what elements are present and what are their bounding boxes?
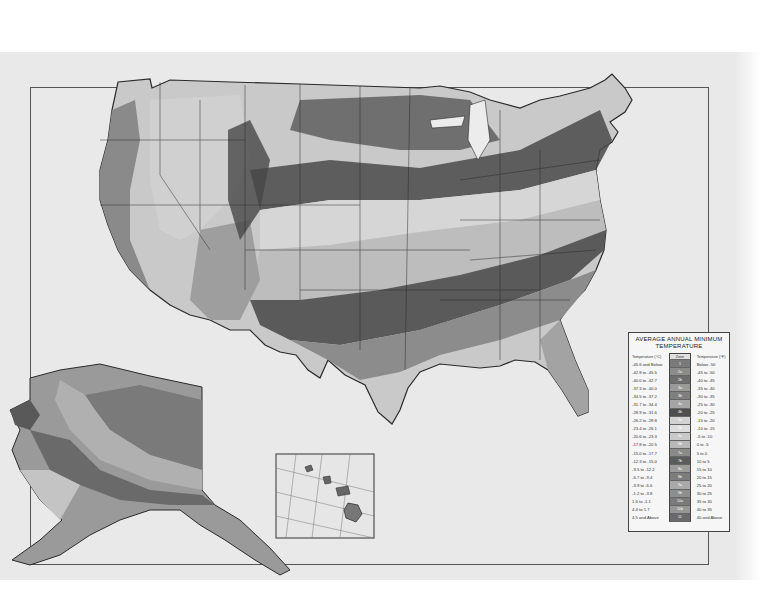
legend-zone-swatch: 2b: [669, 376, 691, 384]
legend-zone-swatch: 10a: [669, 498, 691, 506]
legend-title-line2: TEMPERATURE: [632, 343, 726, 350]
legend-celsius: -37.3 to -40.0: [632, 386, 669, 391]
legend-row: -34.5 to -37.23b-30 to -35: [632, 392, 726, 400]
alaska-inset: [10, 364, 290, 575]
legend-zone-swatch: 5a: [669, 417, 691, 425]
legend-celsius: 4.5 and Above: [632, 515, 669, 520]
legend-zone-swatch: 8b: [669, 473, 691, 481]
legend-row: -45.6 and Below1Below -50: [632, 360, 726, 368]
legend-row: -23.4 to -26.15b-10 to -15: [632, 425, 726, 433]
legend-row: -12.3 to -15.07b10 to 5: [632, 457, 726, 465]
legend-celsius: -45.6 and Below: [632, 362, 669, 367]
legend-celsius: -9.5 to -12.2: [632, 467, 669, 472]
legend-header-zone: Zone: [669, 353, 691, 360]
contiguous-us-map: [100, 74, 632, 424]
legend-zone-swatch: 6b: [669, 441, 691, 449]
legend-celsius: -28.9 to -31.6: [632, 410, 669, 415]
legend-box: AVERAGE ANNUAL MINIMUM TEMPERATURE Tempe…: [628, 332, 730, 532]
legend-zone-swatch: 9b: [669, 490, 691, 498]
legend-fahrenheit: 0 to -5: [691, 442, 726, 447]
legend-header-celsius: Temperature (°C): [632, 355, 669, 359]
legend-zone-swatch: 4a: [669, 400, 691, 408]
legend-fahrenheit: 15 to 10: [691, 467, 726, 472]
legend-zone-swatch: 7b: [669, 457, 691, 465]
legend-row: -40.0 to -42.72b-40 to -45: [632, 376, 726, 384]
legend-row: -37.3 to -40.03a-35 to -40: [632, 384, 726, 392]
legend-fahrenheit: 40 and Above: [691, 515, 726, 520]
legend-header-fahrenheit: Temperature (°F): [691, 355, 726, 359]
legend-zone-swatch: 6a: [669, 433, 691, 441]
legend-fahrenheit: -5 to -10: [691, 434, 726, 439]
legend-celsius: -1.2 to -3.8: [632, 491, 669, 496]
legend-row: 4.4 to 1.710b40 to 35: [632, 506, 726, 514]
legend-fahrenheit: -15 to -20: [691, 418, 726, 423]
legend-celsius: -40.0 to -42.7: [632, 378, 669, 383]
legend-row: -15.0 to -17.77a5 to 0: [632, 449, 726, 457]
legend-row: -31.7 to -34.44a-25 to -30: [632, 400, 726, 408]
legend-zone-swatch: 9a: [669, 481, 691, 489]
legend-celsius: -31.7 to -34.4: [632, 402, 669, 407]
legend-fahrenheit: 30 to 25: [691, 491, 726, 496]
legend-zone-swatch: 8a: [669, 465, 691, 473]
legend-fahrenheit: -30 to -35: [691, 394, 726, 399]
legend-row: -28.9 to -31.64b-20 to -25: [632, 409, 726, 417]
legend-fahrenheit: -25 to -30: [691, 402, 726, 407]
legend-celsius: -20.6 to -23.3: [632, 434, 669, 439]
legend-celsius: -23.4 to -26.1: [632, 426, 669, 431]
legend-zone-swatch: 1: [669, 360, 691, 368]
legend-fahrenheit: 20 to 15: [691, 475, 726, 480]
legend-zone-swatch: 7a: [669, 449, 691, 457]
legend-fahrenheit: -35 to -40: [691, 386, 726, 391]
legend-celsius: -3.9 to -6.6: [632, 483, 669, 488]
legend-row: -26.2 to -28.85a-15 to -20: [632, 417, 726, 425]
legend-zone-swatch: 3b: [669, 392, 691, 400]
legend-celsius: 4.4 to 1.7: [632, 507, 669, 512]
hawaii-inset: [276, 454, 374, 538]
legend-row: -17.8 to -20.56b0 to -5: [632, 441, 726, 449]
legend-row: -1.2 to -3.89b30 to 25: [632, 490, 726, 498]
legend-title-line1: AVERAGE ANNUAL MINIMUM: [632, 336, 726, 343]
legend-fahrenheit: 40 to 35: [691, 507, 726, 512]
legend-fahrenheit: -45 to -50: [691, 370, 726, 375]
legend-row: -9.5 to -12.28a15 to 10: [632, 465, 726, 473]
legend-header: Temperature (°C) Zone Temperature (°F): [632, 353, 726, 360]
legend-row: -20.6 to -23.36a-5 to -10: [632, 433, 726, 441]
legend-fahrenheit: -20 to -25: [691, 410, 726, 415]
legend-fahrenheit: -10 to -15: [691, 426, 726, 431]
legend-fahrenheit: 10 to 5: [691, 459, 726, 464]
legend-fahrenheit: 5 to 0: [691, 451, 726, 456]
legend-zone-swatch: 2a: [669, 368, 691, 376]
legend-row: 1.6 to -1.110a35 to 30: [632, 498, 726, 506]
legend-celsius: -15.0 to -17.7: [632, 451, 669, 456]
legend-celsius: -17.8 to -20.5: [632, 442, 669, 447]
legend-celsius: -12.3 to -15.0: [632, 459, 669, 464]
legend-zone-swatch: 5b: [669, 425, 691, 433]
legend-zone-swatch: 4b: [669, 409, 691, 417]
legend-row: -42.8 to -45.52a-45 to -50: [632, 368, 726, 376]
legend-zone-swatch: 3a: [669, 384, 691, 392]
legend-fahrenheit: Below -50: [691, 362, 726, 367]
legend-celsius: 1.6 to -1.1: [632, 499, 669, 504]
legend-zone-swatch: 11: [669, 514, 691, 522]
legend-row: -3.9 to -6.69a25 to 20: [632, 481, 726, 489]
legend-fahrenheit: 35 to 30: [691, 499, 726, 504]
legend-celsius: -6.7 to -9.4: [632, 475, 669, 480]
legend-celsius: -26.2 to -28.8: [632, 418, 669, 423]
legend-fahrenheit: -40 to -45: [691, 378, 726, 383]
legend-row: 4.5 and Above1140 and Above: [632, 514, 726, 522]
legend-celsius: -42.8 to -45.5: [632, 370, 669, 375]
legend-zone-swatch: 10b: [669, 506, 691, 514]
legend-row: -6.7 to -9.48b20 to 15: [632, 473, 726, 481]
legend-fahrenheit: 25 to 20: [691, 483, 726, 488]
legend-rows: -45.6 and Below1Below -50-42.8 to -45.52…: [632, 360, 726, 522]
legend-celsius: -34.5 to -37.2: [632, 394, 669, 399]
